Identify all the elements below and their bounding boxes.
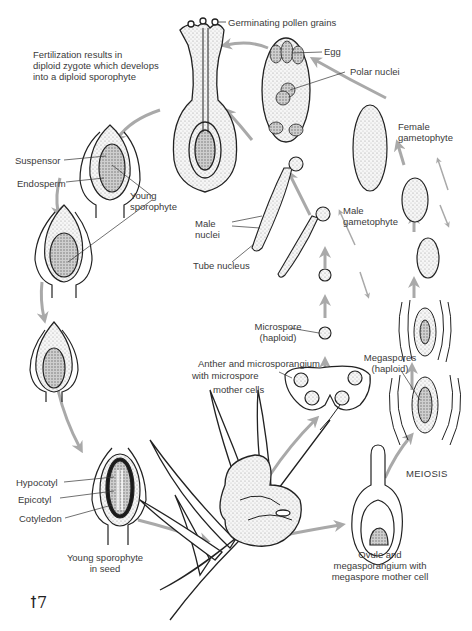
life-cycle-illustration: ꝉ7 [0,0,472,631]
label-anther-3: mother cells [213,384,264,395]
label-megaspores-1: Megaspores [355,352,425,363]
label-male-nuclei-2: nuclei [195,229,220,240]
pollen-tubes [252,157,331,339]
label-seed-2: in seed [50,563,160,574]
label-young-sporophyte-1: Young [130,190,157,201]
ovule-illustration [352,445,403,565]
label-ovule-3: megaspore mother cell [320,571,440,582]
label-meiosis: MEIOSIS [406,468,448,479]
label-endosperm: Endosperm [17,178,66,189]
label-cotyledon: Cotyledon [19,513,62,524]
label-male-gametophyte-2: gametophyte [343,216,398,227]
label-polar-nuclei: Polar nuclei [350,66,400,77]
label-microspore-2: (haploid) [243,332,313,343]
label-male-gametophyte-1: Male [343,205,364,216]
label-megaspores-2: (haploid) [355,363,425,374]
label-epicotyl: Epicotyl [18,494,51,505]
label-fertilization-1: Fertilization results in [33,49,122,60]
embryo-sac-illustration [262,38,310,142]
label-anther-2: with microspore [192,370,259,381]
label-female-gametophyte-1: Female [398,121,430,132]
label-microspore-1: Microspore [243,321,313,332]
label-germinating-pollen: Germinating pollen grains [228,17,336,28]
label-fertilization-2: diploid zygote which develops [33,60,159,71]
label-anther-1: Anther and microsporangium [198,358,320,369]
label-young-sporophyte-2: sporophyte [130,201,177,212]
label-ovule-2: megasporangium with [320,560,440,571]
label-male-nuclei-1: Male [195,218,216,229]
label-egg: Egg [324,46,341,57]
label-seed-1: Young sporophyte [50,552,160,563]
label-ovule-1: Ovule and [320,549,440,560]
label-suspensor: Suspensor [15,155,60,166]
label-hypocotyl: Hypocotyl [16,477,58,488]
label-fertilization-3: into a diploid sporophyte [33,71,136,82]
label-female-gametophyte-2: gametophyte [398,132,453,143]
artist-signature: ꝉ7 [30,593,47,612]
label-tube-nucleus: Tube nucleus [193,260,250,271]
